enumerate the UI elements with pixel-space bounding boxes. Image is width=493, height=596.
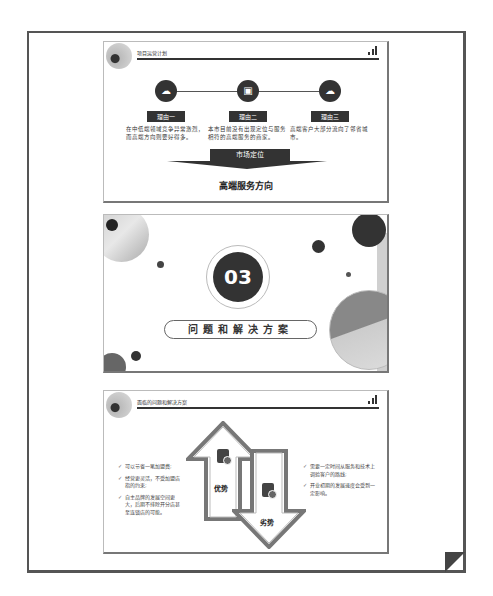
desk-photo-circle <box>103 214 149 262</box>
disadvantages-list: 需要一定时间从服务和技术上调验客户的路线; 开业初期的发展速度会受到一定影响。 <box>303 463 375 501</box>
slide-header-title: 项目运营计划 <box>137 49 167 56</box>
reason-description: 本市目前没有出现定位与服务相符的高端服务的商家。 <box>208 125 288 141</box>
decorative-dot <box>157 261 164 268</box>
list-item: 自主品牌的发展空间更大，后期不排除开分店甚至连锁店的可能。 <box>118 494 180 517</box>
document-check-icon <box>217 449 229 463</box>
monitor-icon: ▣ <box>237 80 259 102</box>
header-photo <box>106 43 132 69</box>
slide-section-divider[interactable]: 03 问题和解决方案 <box>103 214 389 373</box>
section-number-ring: 03 <box>206 245 270 309</box>
section-number: 03 <box>213 252 263 302</box>
slide-problems-solutions[interactable]: 面临的问题和解决方案 优势 劣势 可以节省一笔加盟费; 经营更灵活，不受加盟店指… <box>103 390 389 554</box>
list-item: 经营更灵活，不受加盟店指的约束; <box>118 475 180 490</box>
section-title: 问题和解决方案 <box>164 320 317 339</box>
decorative-dot <box>103 353 126 373</box>
reason-label: 理由三 <box>311 111 349 122</box>
header-divider <box>137 407 379 409</box>
decorative-dot <box>312 240 325 253</box>
arrow-down-icon <box>167 161 327 169</box>
document-settings-icon <box>262 483 274 497</box>
desk-photo-circle <box>329 290 389 370</box>
reason-card-1: ☁ 理由一 在中低端领域竞争异常激烈，而高端方向则要好得多。 <box>126 80 206 141</box>
list-item: 需要一定时间从服务和技术上调验客户的路线; <box>303 463 375 478</box>
decorative-dot <box>346 272 351 277</box>
reason-label: 理由二 <box>229 111 267 122</box>
decorative-dot <box>352 214 386 247</box>
reason-description: 高端客户大部分流向了邻省城市。 <box>290 125 370 141</box>
page-curl-corner <box>445 552 465 572</box>
reason-label: 理由一 <box>147 111 185 122</box>
reason-card-2: ▣ 理由二 本市目前没有出现定位与服务相符的高端服务的商家。 <box>208 80 288 141</box>
disadvantage-arrow-down <box>232 449 306 549</box>
cloud-icon: ☁ <box>319 80 341 102</box>
market-result: 高端服务方向 <box>104 179 387 192</box>
advantage-label: 优势 <box>214 483 228 493</box>
list-item: 可以节省一笔加盟费; <box>118 463 180 471</box>
advantages-list: 可以节省一笔加盟费; 经营更灵活，不受加盟店指的约束; 自主品牌的发展空间更大，… <box>118 463 180 520</box>
reason-card-3: ☁ 理由三 高端客户大部分流向了邻省城市。 <box>290 80 370 141</box>
decorative-dot <box>131 351 141 361</box>
header-divider <box>137 58 379 60</box>
disadvantage-label: 劣势 <box>260 517 274 527</box>
signal-bars-icon <box>368 46 377 55</box>
header-photo <box>106 392 132 418</box>
list-item: 开业初期的发展速度会受到一定影响。 <box>303 482 375 497</box>
signal-bars-icon <box>368 395 377 404</box>
slide-project-plan[interactable]: 项目运营计划 ☁ 理由一 在中低端领域竞争异常激烈，而高端方向则要好得多。 ▣ … <box>103 41 389 203</box>
slide-header-title: 面临的问题和解决方案 <box>137 398 187 405</box>
reason-description: 在中低端领域竞争异常激烈，而高端方向则要好得多。 <box>126 125 206 141</box>
cloud-icon: ☁ <box>155 80 177 102</box>
